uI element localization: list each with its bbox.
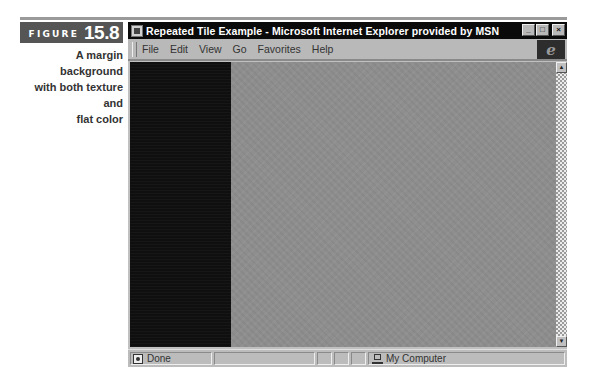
my-computer-icon [372, 354, 383, 364]
status-text: Done [147, 353, 171, 364]
figure-word: FIGURE [29, 29, 79, 39]
page-done-icon [133, 354, 143, 364]
scroll-up-button[interactable]: ▲ [556, 62, 567, 73]
window-controls: _ □ × [522, 24, 565, 36]
menu-items: File Edit View Go Favorites Help [142, 43, 333, 55]
textured-background [231, 62, 556, 347]
caption-line: with both texture and [20, 79, 123, 111]
status-pane-small [351, 352, 366, 365]
status-text-pane: Done [130, 352, 212, 365]
title-bar[interactable]: Repeated Tile Example - Microsoft Intern… [128, 22, 567, 39]
menu-favorites[interactable]: Favorites [258, 43, 301, 55]
menu-help[interactable]: Help [312, 43, 334, 55]
menu-bar: File Edit View Go Favorites Help e [128, 39, 567, 61]
close-button[interactable]: × [552, 24, 565, 36]
scroll-down-button[interactable]: ▼ [556, 336, 567, 347]
maximize-button[interactable]: □ [536, 24, 549, 36]
status-bar: Done My Computer [128, 349, 567, 367]
browser-window: Repeated Tile Example - Microsoft Intern… [128, 22, 567, 367]
page-content [130, 62, 556, 347]
menu-edit[interactable]: Edit [170, 43, 188, 55]
figure-label: FIGURE 15.8 [20, 22, 123, 43]
caption-line: A margin background [20, 47, 123, 79]
minimize-button[interactable]: _ [522, 24, 535, 36]
status-pane-small [334, 352, 349, 365]
vertical-scrollbar[interactable]: ▲ ▼ [556, 62, 567, 347]
figure-number: 15.8 [84, 22, 119, 44]
figure-caption: A margin background with both texture an… [20, 47, 123, 127]
menu-go[interactable]: Go [233, 43, 247, 55]
ie-logo-icon: e [537, 40, 565, 59]
zone-text: My Computer [386, 353, 446, 364]
caption-line: flat color [20, 111, 123, 127]
menu-view[interactable]: View [199, 43, 222, 55]
status-pane-small [317, 352, 332, 365]
menu-file[interactable]: File [142, 43, 159, 55]
progress-pane [214, 352, 315, 365]
top-rule [20, 17, 567, 20]
window-title: Repeated Tile Example - Microsoft Intern… [146, 25, 499, 37]
zone-pane: My Computer [368, 352, 565, 365]
toolbar-grip[interactable] [132, 42, 137, 57]
dark-margin-background [130, 62, 231, 347]
ie-page-icon[interactable] [131, 25, 143, 37]
